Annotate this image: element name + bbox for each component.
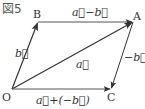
vector-parallelogram-figure: 図5 O A B C b⃗ a⃗ a⃗−b⃗ −b⃗ a⃗+(−b⃗) bbox=[0, 0, 145, 109]
point-a-label: A bbox=[132, 10, 142, 23]
vector-oa-label: a⃗ bbox=[76, 58, 89, 71]
point-o-label: O bbox=[2, 91, 11, 104]
diagram-canvas: 図5 O A B C b⃗ a⃗ a⃗−b⃗ −b⃗ a⃗+(−b⃗) bbox=[0, 0, 145, 109]
vector-ba-label: a⃗−b⃗ bbox=[72, 6, 108, 19]
vector-oc-label: a⃗+(−b⃗) bbox=[36, 94, 90, 107]
figure-title: 図5 bbox=[2, 2, 22, 16]
point-c-label: C bbox=[107, 91, 115, 104]
point-b-label: B bbox=[33, 8, 41, 21]
vector-ac-label: −b⃗ bbox=[124, 51, 145, 64]
vector-ob-label: b⃗ bbox=[15, 47, 29, 60]
